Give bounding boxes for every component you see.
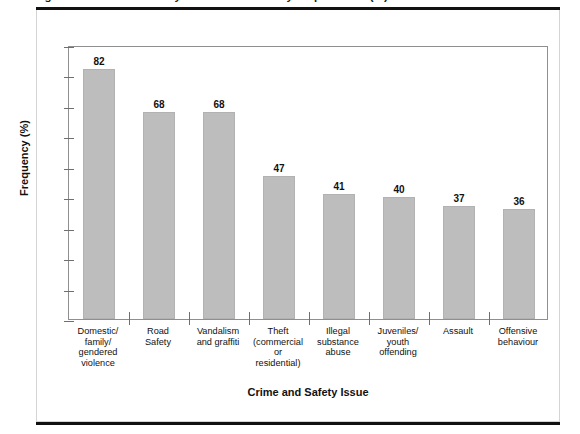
x-category-label: Illegalsubstanceabuse [308, 326, 368, 358]
x-category-label: Domestic/family/genderedviolence [68, 326, 128, 368]
bar-value-label: 37 [453, 193, 464, 204]
x-category-label-line: Vandalism [188, 326, 248, 337]
bar-chart: Frequency (%) 0102030405060708090 826868… [0, 0, 580, 434]
x-tick-mark-inner [489, 312, 490, 319]
bar: 40 [383, 197, 415, 319]
x-category-label-line: or [248, 347, 308, 358]
bar: 82 [83, 69, 115, 319]
x-category-label-line: gendered [68, 347, 128, 358]
y-tick-mark [64, 321, 74, 322]
bar: 41 [323, 194, 355, 319]
bar: 36 [503, 209, 535, 319]
bar: 37 [443, 206, 475, 319]
x-category-label-line: Illegal [308, 326, 368, 337]
x-tick-mark-inner [249, 312, 250, 319]
x-category-label-line: Offensive [488, 326, 548, 337]
x-tick-mark-inner [189, 312, 190, 319]
x-axis-title: Crime and Safety Issue [68, 386, 548, 398]
x-category-label-line: Domestic/ [68, 326, 128, 337]
x-tick-mark-inner [309, 312, 310, 319]
x-tick-mark [129, 319, 130, 325]
bar: 47 [263, 176, 295, 319]
bar-value-label: 47 [273, 163, 284, 174]
x-category-label-line: violence [68, 358, 128, 369]
x-tick-mark [369, 319, 370, 325]
x-category-label-line: youth [368, 337, 428, 348]
plot-area: 0102030405060708090 8268684741403736 [68, 46, 548, 320]
bar: 68 [143, 112, 175, 319]
x-category-label-line: Theft [248, 326, 308, 337]
bar-value-label: 82 [93, 56, 104, 67]
y-tick-mark [64, 230, 74, 231]
y-tick-mark [64, 260, 74, 261]
x-tick-mark [249, 319, 250, 325]
bar: 68 [203, 112, 235, 319]
x-category-label: Juveniles/youthoffending [368, 326, 428, 358]
x-category-label-line: residential) [248, 358, 308, 369]
bar-value-label: 36 [513, 196, 524, 207]
bar-value-label: 41 [333, 181, 344, 192]
x-category-label-line: offending [368, 347, 428, 358]
x-category-label-line: behaviour [488, 337, 548, 348]
y-tick-mark [64, 108, 74, 109]
y-tick-mark [64, 199, 74, 200]
x-category-label: Assault [428, 326, 488, 337]
x-tick-mark-inner [369, 312, 370, 319]
x-category-label-line: substance [308, 337, 368, 348]
x-tick-mark [189, 319, 190, 325]
y-tick-mark [64, 47, 74, 48]
y-tick-mark [64, 169, 74, 170]
x-category-label-line: abuse [308, 347, 368, 358]
x-tick-mark-inner [429, 312, 430, 319]
y-tick-mark [64, 77, 74, 78]
x-category-label: Offensivebehaviour [488, 326, 548, 347]
x-tick-mark-inner [129, 312, 130, 319]
bar-value-label: 40 [393, 184, 404, 195]
x-category-label: Vandalismand graffiti [188, 326, 248, 347]
x-tick-mark [309, 319, 310, 325]
x-category-label: Theft(commercialorresidential) [248, 326, 308, 368]
y-tick-mark [64, 291, 74, 292]
x-category-label-line: and graffiti [188, 337, 248, 348]
x-category-label: RoadSafety [128, 326, 188, 347]
y-tick-mark [64, 138, 74, 139]
y-axis-title: Frequency (%) [18, 68, 30, 248]
x-category-label-line: Road [128, 326, 188, 337]
x-category-label-line: Safety [128, 337, 188, 348]
x-category-label-line: Assault [428, 326, 488, 337]
bar-value-label: 68 [213, 99, 224, 110]
bar-value-label: 68 [153, 99, 164, 110]
x-category-label-line: (commercial [248, 337, 308, 348]
x-category-label-line: Juveniles/ [368, 326, 428, 337]
x-tick-mark [429, 319, 430, 325]
x-category-label-line: family/ [68, 337, 128, 348]
x-tick-mark [489, 319, 490, 325]
